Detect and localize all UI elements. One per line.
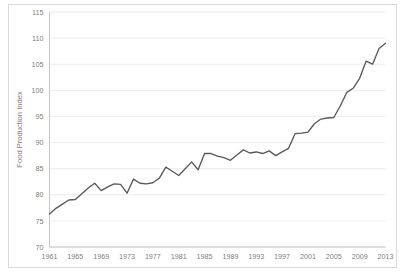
x-axis-tick-labels: 1961196519691973197719811985198919931997… <box>42 252 394 261</box>
x-tick-label-2013: 2013 <box>378 252 394 261</box>
y-tick-label-80: 80 <box>36 190 44 199</box>
x-tick-label-1973: 1973 <box>119 252 135 261</box>
x-tick-label-1993: 1993 <box>248 252 264 261</box>
x-tick-label-1997: 1997 <box>274 252 290 261</box>
x-tick-label-2009: 2009 <box>352 252 368 261</box>
y-axis-title-text: Food Production Index <box>15 91 24 168</box>
y-axis-tick-labels: 707580859095100105110115 <box>32 8 44 252</box>
y-tick-label-75: 75 <box>36 217 44 226</box>
y-tick-label-105: 105 <box>32 60 44 69</box>
data-series-line <box>50 43 386 214</box>
y-tick-label-100: 100 <box>32 86 44 95</box>
gridlines <box>50 12 386 247</box>
x-tick-label-1965: 1965 <box>67 252 83 261</box>
y-tick-label-110: 110 <box>32 34 43 43</box>
x-tick-label-1985: 1985 <box>197 252 213 261</box>
x-tick-label-1969: 1969 <box>93 252 109 261</box>
x-tick-label-1961: 1961 <box>42 252 58 261</box>
y-tick-label-90: 90 <box>36 138 44 147</box>
y-tick-label-115: 115 <box>32 8 43 17</box>
y-axis-title: Food Production Index <box>15 91 24 168</box>
y-tick-label-95: 95 <box>36 112 44 121</box>
x-tick-label-2001: 2001 <box>300 252 316 261</box>
food-production-index-line-chart: 707580859095100105110115 196119651969197… <box>0 0 409 276</box>
y-tick-label-70: 70 <box>36 243 44 252</box>
x-tick-label-1989: 1989 <box>222 252 238 261</box>
x-tick-label-1977: 1977 <box>145 252 161 261</box>
x-tick-label-1981: 1981 <box>171 252 187 261</box>
y-tick-label-85: 85 <box>36 164 44 173</box>
axis-lines <box>50 12 386 247</box>
x-tick-label-2005: 2005 <box>326 252 342 261</box>
